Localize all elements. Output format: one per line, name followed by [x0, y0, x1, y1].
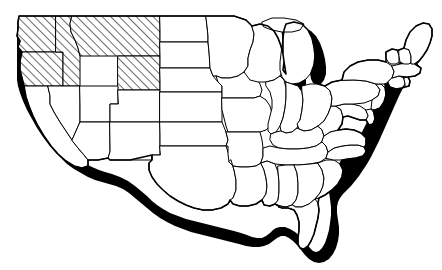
state-KS[interactable]: [160, 92, 222, 122]
us-states-map-figure: [0, 0, 442, 270]
state-MT[interactable]: [70, 16, 160, 56]
state-OR[interactable]: [20, 52, 63, 86]
state-TX[interactable]: [149, 146, 236, 210]
state-WY[interactable]: [118, 56, 160, 90]
state-NY[interactable]: [342, 60, 394, 84]
us-map-svg: [0, 0, 442, 270]
state-OK[interactable]: [160, 122, 228, 146]
state-WA[interactable]: [17, 16, 56, 52]
state-SD[interactable]: [160, 42, 210, 68]
state-ND[interactable]: [160, 16, 208, 42]
state-CO[interactable]: [110, 90, 160, 122]
state-MO[interactable]: [222, 96, 272, 132]
